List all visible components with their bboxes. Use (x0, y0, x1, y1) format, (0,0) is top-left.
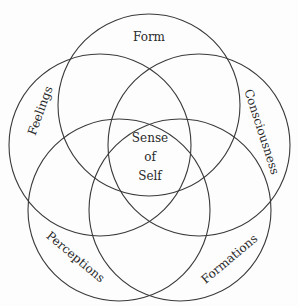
center-label-line-2: of (115, 148, 185, 167)
center-label-line-3: Self (115, 167, 185, 186)
label-perceptions: Perceptions (44, 229, 108, 286)
venn-diagram: Form Feelings Consciousness Perceptions … (0, 0, 298, 306)
label-formations: Formations (199, 231, 261, 286)
label-consciousness: Consciousness (241, 87, 282, 176)
center-label: Sense of Self (115, 129, 185, 186)
label-form: Form (133, 30, 166, 44)
center-label-line-1: Sense (115, 129, 185, 148)
label-feelings: Feelings (25, 84, 56, 137)
